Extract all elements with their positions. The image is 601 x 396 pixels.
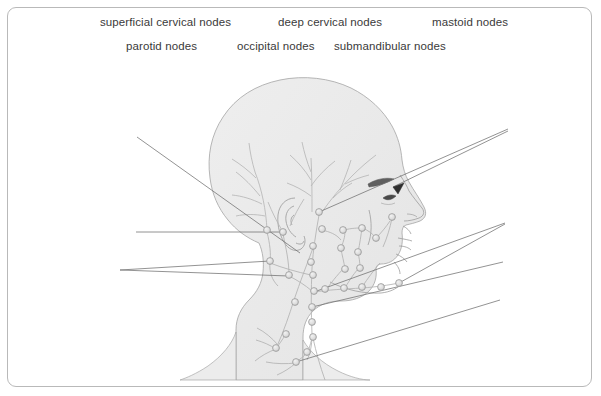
- node-occipital-upper: [264, 227, 271, 234]
- node-deep-cervical-3: [311, 288, 318, 295]
- node-occipital-lower: [280, 229, 287, 236]
- node-buccal-2: [359, 225, 366, 232]
- node-deep-cervical-2: [310, 272, 317, 279]
- node-deep-cervical-4: [309, 304, 316, 311]
- lymph-node-diagram-figure: superficial cervical nodes deep cervical…: [0, 0, 601, 396]
- node-posterior-cervical-1: [267, 258, 274, 265]
- node-facial-3: [342, 266, 349, 273]
- node-submental: [396, 280, 403, 287]
- node-submandibular-4: [378, 284, 385, 291]
- node-jugular-chain-3: [273, 345, 280, 352]
- node-mastoid-c: [310, 243, 317, 250]
- leader-deep-cervical: [393, 131, 508, 187]
- leader-supraclavicular: [296, 300, 500, 362]
- node-preauricular: [389, 214, 396, 221]
- label-submandibular-nodes: submandibular nodes: [334, 40, 446, 52]
- node-buccal-3: [373, 235, 380, 242]
- body-silhouette: [180, 78, 426, 380]
- node-mastoid-a: [316, 209, 323, 216]
- leader-occipital-a: [120, 261, 270, 270]
- node-facial-1: [338, 245, 345, 252]
- label-mastoid-nodes: mastoid nodes: [432, 16, 508, 28]
- node-jugular-chain-2: [283, 331, 290, 338]
- node-posterior-cervical-2: [286, 272, 293, 279]
- label-deep-cervical-nodes: deep cervical nodes: [278, 16, 382, 28]
- label-occipital-nodes: occipital nodes: [237, 40, 315, 52]
- node-submandibular-2: [341, 285, 348, 292]
- node-deep-cervical-5: [309, 319, 316, 326]
- node-supraclavicular-1: [304, 349, 311, 356]
- node-deep-cervical-1: [308, 259, 315, 266]
- node-submandibular-3: [359, 284, 366, 291]
- node-supraclavicular-2: [293, 359, 300, 366]
- node-buccal-1: [340, 227, 347, 234]
- label-superficial-cervical-nodes: superficial cervical nodes: [100, 16, 231, 28]
- node-facial-2: [355, 249, 362, 256]
- label-parotid-nodes: parotid nodes: [126, 40, 197, 52]
- head-neck-lymphatic-illustration: [0, 0, 601, 396]
- node-deep-cervical-6: [310, 334, 317, 341]
- node-submandibular-1: [322, 286, 329, 293]
- node-facial-4: [357, 265, 364, 272]
- node-mastoid-b: [319, 226, 326, 233]
- node-jugular-chain-1: [292, 299, 299, 306]
